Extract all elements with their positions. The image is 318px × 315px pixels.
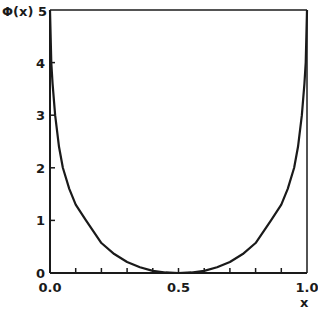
x-tick-label: 0.0 (38, 280, 61, 295)
tick-labels: 0123450.00.51.0 (36, 4, 318, 295)
y-tick-label: 5 (38, 4, 47, 19)
y-tick-label: 0 (36, 266, 45, 281)
ticks (50, 63, 281, 273)
y-axis-label: Φ(x) (2, 4, 33, 19)
x-tick-label: 1.0 (295, 280, 318, 295)
x-axis-label: x (300, 295, 309, 310)
x-tick-label: 0.5 (167, 280, 190, 295)
y-tick-label: 1 (36, 213, 45, 228)
y-tick-label: 4 (36, 56, 45, 71)
y-tick-label: 3 (36, 108, 45, 123)
y-tick-label: 2 (36, 161, 45, 176)
chart: 0123450.00.51.0 Φ(x) x (0, 0, 318, 315)
plot-frame (50, 10, 307, 273)
phi-curve (50, 10, 307, 273)
